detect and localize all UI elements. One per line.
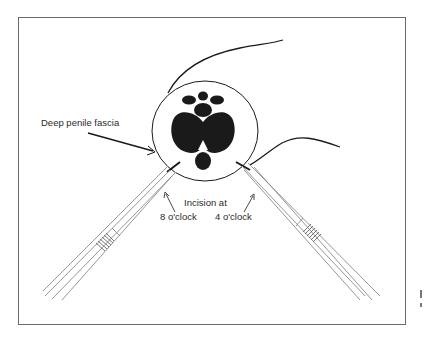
- incision-8-arrow-icon: [164, 192, 175, 212]
- left-forceps-icon: [43, 166, 176, 300]
- incision-left-label: 8 o'clock: [160, 212, 197, 222]
- right-suture-icon: [250, 138, 340, 165]
- fascia-label: Deep penile fascia: [41, 118, 119, 128]
- fascia-arrow-icon: [88, 133, 155, 155]
- incision-right-label: 4 o'clock: [215, 212, 252, 222]
- dorsal-vein-center-icon: [198, 92, 208, 101]
- dorsal-vein-left-icon: [182, 96, 196, 105]
- page-edge-mark: [420, 290, 422, 298]
- corpus-spongiosum-icon: [195, 152, 211, 170]
- penile-cross-section-diagram: [0, 0, 424, 343]
- dorsal-central-vessel-icon: [194, 103, 212, 117]
- page-edge-mark: [420, 303, 422, 307]
- right-forceps-icon: [242, 163, 380, 300]
- dorsal-vein-right-icon: [210, 96, 224, 105]
- incision-label-line1: Incision at: [184, 198, 227, 208]
- incision-4-arrow-icon: [244, 194, 254, 212]
